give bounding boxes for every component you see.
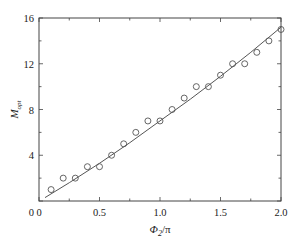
data-point xyxy=(60,175,66,181)
x-tick-label: 0 xyxy=(36,207,41,218)
data-point xyxy=(84,164,90,170)
y-tick-label: 16 xyxy=(24,13,35,24)
axes xyxy=(39,18,281,201)
data-point xyxy=(133,129,139,135)
data-point xyxy=(145,118,151,124)
axis-labels: 00.51.01.52.04812160Φ2/πMopt xyxy=(8,13,288,238)
x-tick-label: 2.0 xyxy=(274,207,287,218)
chart: 00.51.01.52.04812160Φ2/πMopt xyxy=(0,0,298,243)
x-tick-label: 0.5 xyxy=(93,207,106,218)
y-tick-label: 8 xyxy=(29,105,34,116)
fit-line xyxy=(45,27,281,197)
data-point xyxy=(242,61,248,67)
data-point xyxy=(169,107,175,113)
x-tick-label: 1.5 xyxy=(214,207,227,218)
fit-curve xyxy=(45,27,281,197)
y-tick-label: 12 xyxy=(24,59,35,70)
data-point xyxy=(97,164,103,170)
data-point xyxy=(181,95,187,101)
data-point xyxy=(266,38,272,44)
x-tick-label: 1.0 xyxy=(153,207,166,218)
y-tick-label: 4 xyxy=(29,150,35,161)
data-point xyxy=(121,141,127,147)
data-point xyxy=(48,187,54,193)
y-axis-label: Mopt xyxy=(8,99,23,119)
origin-label: 0 xyxy=(29,207,34,218)
data-point xyxy=(254,49,260,55)
x-axis-label: Φ2/π xyxy=(150,223,171,238)
plot-frame xyxy=(39,18,281,201)
data-point xyxy=(230,61,236,67)
data-point xyxy=(72,175,78,181)
data-points xyxy=(48,26,284,192)
data-point xyxy=(193,84,199,90)
